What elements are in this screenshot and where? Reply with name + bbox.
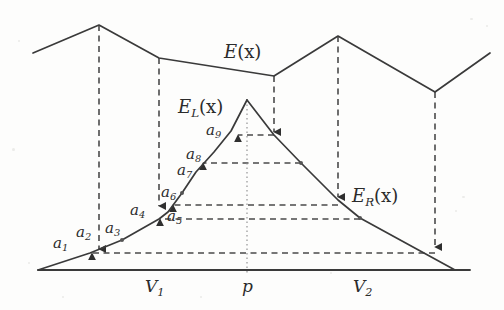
label-a3: a3 xyxy=(105,221,120,236)
label-a5: a5 xyxy=(167,209,182,224)
label-a2: a2 xyxy=(76,225,91,240)
label-v1: V1 xyxy=(145,278,164,295)
vertex-er-2 xyxy=(358,216,362,220)
vertex-er-1 xyxy=(299,161,303,165)
label-EL: EL(x) xyxy=(178,98,223,116)
vertex-a7 xyxy=(180,191,184,195)
curve-group xyxy=(33,25,490,270)
label-a6: a6 xyxy=(161,185,176,200)
label-a4: a4 xyxy=(130,203,145,218)
label-ER: ER(x) xyxy=(352,187,398,205)
curve-E xyxy=(33,25,490,92)
label-a9: a9 xyxy=(206,123,221,138)
vertex-dot-group xyxy=(120,161,362,242)
label-p: p xyxy=(242,278,253,295)
vertex-a3 xyxy=(120,238,124,242)
label-a8: a8 xyxy=(186,147,201,162)
envelope-decomposition-figure: a1a2a3a4a5a6a7a8a9V1pV2E(x)EL(x)ER(x) xyxy=(0,0,504,310)
label-v2: V2 xyxy=(353,278,372,295)
label-a7: a7 xyxy=(177,163,192,178)
label-E: E(x) xyxy=(224,43,261,61)
label-a1: a1 xyxy=(53,236,68,251)
curve-ER xyxy=(247,100,455,270)
dropline-group xyxy=(99,25,435,249)
